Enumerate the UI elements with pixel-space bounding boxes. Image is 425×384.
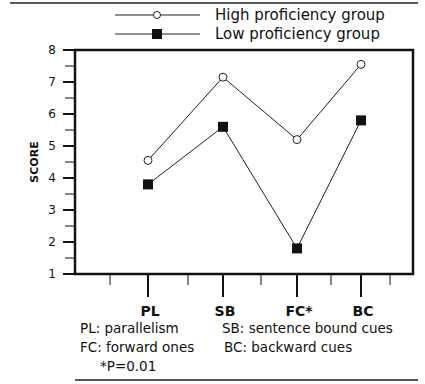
y-tick-label: 6 [48, 107, 56, 121]
series-line [148, 120, 361, 248]
y-tick-label: 4 [48, 171, 56, 185]
square-marker-icon [356, 115, 366, 125]
note-significance: *P=0.01 [100, 358, 156, 374]
y-axis: 12345678 [48, 43, 75, 281]
y-tick-label: 3 [48, 203, 56, 217]
y-axis-label: SCORE [28, 141, 41, 182]
circle-marker-icon [144, 156, 152, 164]
square-marker-icon [218, 122, 228, 132]
x-tick-label: SB [215, 303, 236, 319]
legend-circle-icon [154, 12, 161, 19]
note-bc: BC: backward cues [224, 339, 352, 355]
x-tick-label: BC [353, 303, 374, 319]
circle-marker-icon [357, 60, 365, 68]
legend-low-label: Low proficiency group [215, 25, 380, 43]
x-tick-label: FC* [285, 303, 313, 319]
y-tick-label: 2 [48, 235, 56, 249]
circle-marker-icon [293, 136, 301, 144]
legend-square-icon [152, 29, 162, 39]
square-marker-icon [143, 179, 153, 189]
x-axis: PLSBFC*BC [110, 274, 390, 319]
note-pl: PL: parallelism [80, 320, 179, 336]
y-tick-label: 8 [48, 43, 56, 57]
x-tick-label: PL [140, 303, 159, 319]
square-marker-icon [292, 243, 302, 253]
series-line [148, 64, 361, 160]
y-tick-label: 5 [48, 139, 56, 153]
y-tick-label: 7 [48, 75, 56, 89]
series-layer [143, 60, 366, 253]
legend: High proficiency group Low proficiency g… [115, 6, 385, 43]
note-sb: SB: sentence bound cues [222, 320, 393, 336]
note-fc: FC: forward ones [80, 339, 194, 355]
y-tick-label: 1 [48, 267, 56, 281]
circle-marker-icon [219, 73, 227, 81]
legend-high-label: High proficiency group [215, 6, 385, 24]
